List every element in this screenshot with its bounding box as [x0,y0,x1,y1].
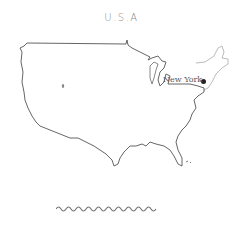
florida-keys [186,161,191,163]
great-salt-lake [62,84,64,88]
usa-outline-map [0,0,243,226]
decorative-wavy-divider [56,204,158,214]
new-york-label: New York [163,75,202,84]
usa-outline [20,40,204,166]
great-lakes [150,62,158,84]
